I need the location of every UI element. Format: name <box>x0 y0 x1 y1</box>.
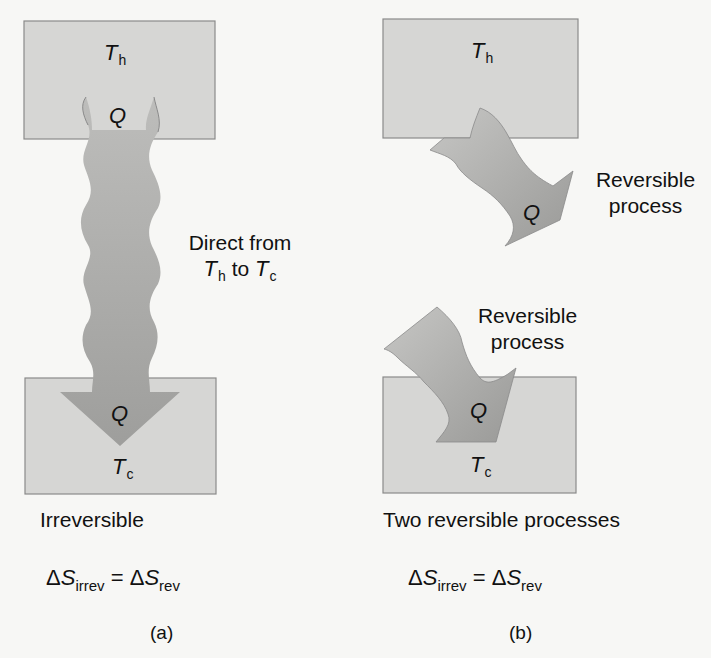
irrev-subscript: irrev <box>437 577 466 594</box>
temp-symbol: T <box>204 256 217 281</box>
to-word: to <box>232 257 250 280</box>
process-line2: process <box>465 329 590 355</box>
temp-symbol: T <box>104 40 117 65</box>
heat-q-bottom-a: Q <box>111 401 128 427</box>
hot-temp-label-b: Th <box>471 38 493 66</box>
cold-temp-label-a: Tc <box>112 454 133 482</box>
temp-symbol: T <box>471 38 484 63</box>
heat-q-top-a: Q <box>109 103 126 129</box>
temp-subscript: h <box>118 52 126 68</box>
equation-b: ΔSirrev = ΔSrev <box>408 565 542 594</box>
direct-flow-line2: Th to Tc <box>166 256 314 289</box>
hot-temp-label-a: Th <box>104 40 126 68</box>
equals-sign: = <box>473 565 486 590</box>
entropy-symbol: S <box>144 565 159 590</box>
direct-flow-label: Direct from Th to Tc <box>166 230 314 289</box>
panel-b-title: Two reversible processes <box>383 507 620 533</box>
delta-symbol: Δ <box>46 565 61 590</box>
temp-subscript: c <box>126 466 133 482</box>
temp-symbol: T <box>470 452 483 477</box>
heat-q-bottom-b: Q <box>470 398 487 424</box>
delta-symbol: Δ <box>130 565 145 590</box>
equals-sign: = <box>111 565 124 590</box>
irrev-subscript: irrev <box>75 577 104 594</box>
entropy-symbol: S <box>423 565 438 590</box>
reversible-process-label-top: Reversible process <box>583 167 708 219</box>
reversible-process-label-bottom: Reversible process <box>465 303 590 355</box>
caption-b: (b) <box>509 622 532 644</box>
entropy-symbol: S <box>61 565 76 590</box>
entropy-symbol: S <box>506 565 521 590</box>
heat-q-top-b: Q <box>523 200 540 226</box>
temp-symbol: T <box>112 454 125 479</box>
rev-subscript: rev <box>159 577 180 594</box>
direct-flow-line1: Direct from <box>166 230 314 256</box>
rev-subscript: rev <box>521 577 542 594</box>
process-line1: Reversible <box>465 303 590 329</box>
caption-a: (a) <box>150 622 173 644</box>
process-line1: Reversible <box>583 167 708 193</box>
cold-temp-label-b: Tc <box>470 452 491 480</box>
heat-flow-arrow-a <box>60 97 180 446</box>
temp-subscript: c <box>484 464 491 480</box>
panel-a-title: Irreversible <box>40 507 144 533</box>
diagram-canvas <box>0 0 711 658</box>
temp-subscript: c <box>269 268 276 284</box>
process-line2: process <box>583 193 708 219</box>
equation-a: ΔSirrev = ΔSrev <box>46 565 180 594</box>
delta-symbol: Δ <box>492 565 507 590</box>
temp-subscript: h <box>218 268 226 284</box>
temp-symbol: T <box>255 256 268 281</box>
temp-subscript: h <box>485 50 493 66</box>
delta-symbol: Δ <box>408 565 423 590</box>
